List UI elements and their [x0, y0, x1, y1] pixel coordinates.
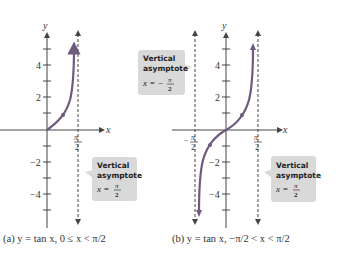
- svg-text:2: 2: [75, 143, 79, 152]
- y-tick-neg2: −2: [209, 157, 220, 168]
- y-axis-label: y: [221, 20, 227, 31]
- svg-text:x = −: x = −: [142, 78, 164, 88]
- svg-text:2: 2: [191, 143, 195, 152]
- svg-text:x =: x =: [96, 184, 109, 194]
- caption-panel-b: (b) y = tan x, −π/2 < x < π/2: [172, 233, 290, 244]
- svg-text:asymptote: asymptote: [143, 64, 188, 73]
- x-tick-neg-pi-over-2: − π 2: [184, 133, 198, 152]
- y-axis-label: y: [42, 20, 48, 31]
- callout-asymptote-right-a: Vertical asymptote x = π 2: [85, 157, 142, 201]
- x-tick-pi-over-2: π 2: [254, 133, 262, 152]
- svg-text:2: 2: [168, 85, 172, 93]
- svg-text:Vertical: Vertical: [97, 161, 129, 170]
- svg-text:2: 2: [294, 191, 298, 199]
- y-tick-neg2: −2: [30, 157, 41, 168]
- svg-text:2: 2: [115, 191, 119, 199]
- x-tick-pi-over-2: π 2: [74, 133, 82, 152]
- svg-text:x =: x =: [275, 184, 288, 194]
- caption-panel-a: (a) y = tan x, 0 ≤ x < π/2: [3, 233, 106, 244]
- y-tick-4: 4: [215, 60, 220, 71]
- svg-text:asymptote: asymptote: [97, 171, 142, 180]
- y-tick-2: 2: [36, 92, 41, 103]
- svg-text:2: 2: [255, 143, 259, 152]
- y-tick-neg4: −4: [209, 189, 220, 200]
- x-axis-label: x: [282, 124, 288, 135]
- svg-text:−: −: [184, 136, 189, 145]
- callout-asymptote-right-b: Vertical asymptote x = π 2: [264, 156, 321, 202]
- svg-text:Vertical: Vertical: [143, 54, 175, 63]
- svg-text:π: π: [294, 182, 298, 190]
- y-tick-4: 4: [36, 60, 41, 71]
- panel-b: x y 4 2 −2 −4 − π 2: [138, 20, 321, 228]
- tangent-graphs-figure: x y 4 2 −2 −4 π 2: [0, 0, 339, 259]
- y-tick-2: 2: [215, 92, 220, 103]
- tangent-curve: [47, 48, 74, 130]
- panel-a: x y 4 2 −2 −4 π 2: [0, 20, 142, 228]
- svg-text:π: π: [168, 76, 172, 84]
- svg-text:asymptote: asymptote: [276, 171, 321, 180]
- y-tick-neg4: −4: [30, 189, 41, 200]
- x-axis-label: x: [105, 124, 111, 135]
- svg-text:π: π: [115, 182, 119, 190]
- svg-text:Vertical: Vertical: [276, 161, 308, 170]
- callout-asymptote-left-b: Vertical asymptote x = − π 2: [138, 50, 192, 95]
